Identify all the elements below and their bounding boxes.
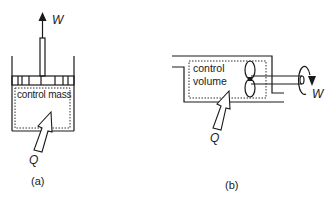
heat-label-b: Q [210, 131, 219, 145]
piston-cylinder-diagram [12, 12, 74, 152]
heat-label-a: Q [29, 153, 38, 167]
fan-hub [248, 77, 252, 81]
control-mass-label: control mass [17, 89, 71, 100]
arrow-up-icon [39, 12, 47, 21]
work-label-b: W [312, 87, 323, 101]
caption-a: (a) [31, 175, 44, 187]
heat-arrow-icon [34, 112, 52, 152]
piston [12, 76, 74, 85]
piston-rod [40, 38, 45, 76]
fan-blade-bottom [245, 79, 255, 97]
control-volume-label-line1: control [193, 62, 225, 74]
work-label-a: W [52, 13, 63, 27]
rotation-arrowhead-icon [308, 76, 316, 86]
control-volume-label-line2: volume [193, 75, 227, 87]
caption-b: (b) [225, 179, 238, 191]
heat-arrow-icon [213, 91, 230, 130]
